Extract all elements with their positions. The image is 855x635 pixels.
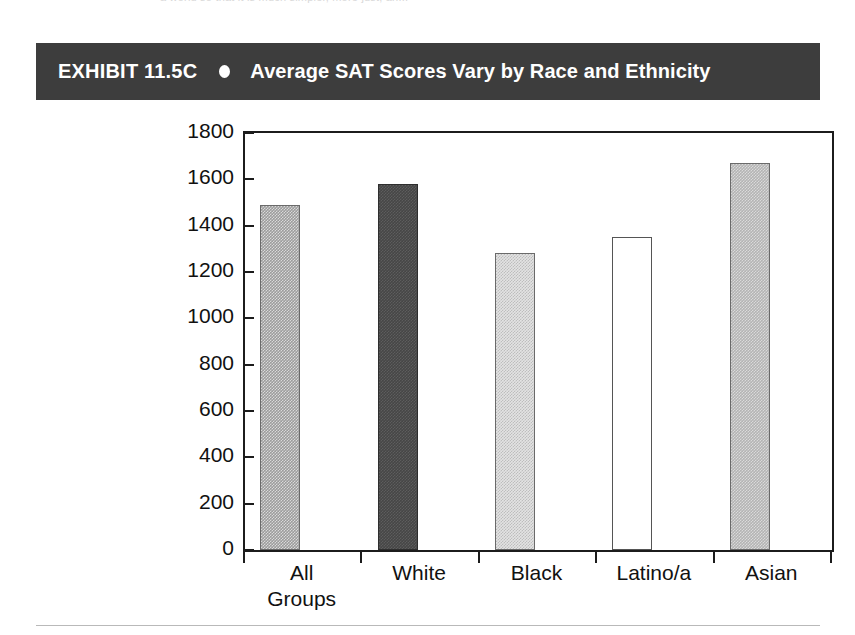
x-axis-labels: AllGroupsWhiteBlackLatino/aAsian <box>243 560 832 622</box>
y-axis-tick-label: 1800 <box>124 119 234 143</box>
x-axis-label-line: Groups <box>243 586 360 612</box>
y-axis-tick <box>245 410 254 412</box>
y-axis-tick-label: 0 <box>124 536 234 560</box>
sat-scores-bar-chart: 020040060080010001200140016001800 AllGro… <box>0 0 855 635</box>
x-axis-label: Black <box>478 560 595 586</box>
y-axis-tick-label: 400 <box>124 443 234 467</box>
x-axis-label-line: Asian <box>745 561 798 584</box>
y-axis-labels: 020040060080010001200140016001800 <box>118 131 234 548</box>
y-axis-tick <box>245 456 254 458</box>
y-axis-tick-label: 1200 <box>124 258 234 282</box>
bar-white <box>378 184 418 550</box>
x-axis-label: White <box>360 560 477 586</box>
y-axis-tick-label: 1400 <box>124 212 234 236</box>
plot-area <box>243 131 834 552</box>
y-axis-tick-label: 1600 <box>124 165 234 189</box>
y-axis-tick <box>245 364 254 366</box>
x-axis-label-line: Black <box>511 561 562 584</box>
x-axis-label-line: White <box>392 561 446 584</box>
x-axis-label-line: All <box>290 561 313 584</box>
bottom-divider <box>36 625 820 626</box>
bar-asian <box>730 163 770 550</box>
bar-all-groups <box>260 205 300 550</box>
x-axis-label: Latino/a <box>595 560 712 586</box>
x-axis-label-line: Latino/a <box>617 561 692 584</box>
x-axis-label: Asian <box>713 560 830 586</box>
y-axis-tick <box>245 132 254 134</box>
bar-latino-a <box>612 237 652 550</box>
y-axis-tick-label: 600 <box>124 397 234 421</box>
y-axis-tick <box>245 225 254 227</box>
y-axis-tick-label: 200 <box>124 490 234 514</box>
y-axis-tick-label: 1000 <box>124 304 234 328</box>
x-axis-label: AllGroups <box>243 560 360 612</box>
y-axis-tick-label: 800 <box>124 351 234 375</box>
y-axis-tick <box>245 271 254 273</box>
y-axis-tick <box>245 503 254 505</box>
y-axis-tick <box>245 178 254 180</box>
bar-black <box>495 253 535 550</box>
y-axis-tick <box>245 317 254 319</box>
